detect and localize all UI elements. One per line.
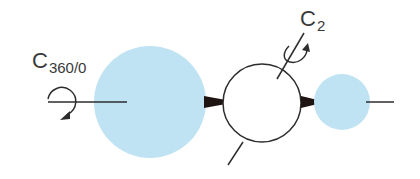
- symmetry-diagram-svg: [0, 0, 420, 179]
- c2-label: C2: [300, 8, 325, 30]
- c360-label-subscript: 360/0: [49, 59, 87, 76]
- c2-label-subscript: 2: [317, 17, 325, 34]
- c2-rotation-axis-upper: [277, 33, 304, 79]
- c360-label-main: C: [32, 48, 48, 73]
- c2-label-main: C: [300, 6, 316, 31]
- c2-rotation-axis-lower: [228, 142, 243, 165]
- diagram-canvas: C360/0 C2: [0, 0, 420, 179]
- c360-arrowhead-icon: [60, 111, 70, 120]
- central-white-atom: [223, 64, 301, 142]
- c2-arrowhead-icon: [302, 43, 310, 52]
- small-blue-atom: [314, 74, 370, 130]
- c360-label: C360/0: [32, 50, 86, 72]
